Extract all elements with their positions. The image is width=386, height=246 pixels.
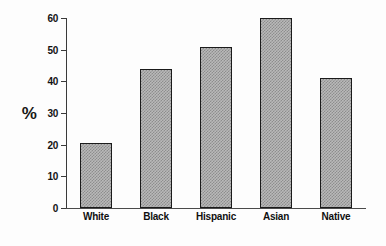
y-tick-label: 60 [47,13,58,24]
bar-asian [260,18,293,208]
bar-chart: % 0102030405060 WhiteBlackHispanicAsianN… [0,0,386,246]
bar-native [320,78,353,208]
y-tick-label: 40 [47,76,58,87]
bar-white [80,143,113,208]
y-tick-label: 10 [47,171,58,182]
y-tick-label: 0 [53,203,58,214]
x-axis-tick-labels: WhiteBlackHispanicAsianNative [66,211,366,229]
x-tick-label-asian: Asian [246,211,306,222]
y-tick-label: 50 [47,44,58,55]
y-tick-label: 30 [47,108,58,119]
x-tick-label-black: Black [126,211,186,222]
y-axis-title: % [12,104,46,124]
x-tick-label-white: White [66,211,126,222]
plot-area: 0102030405060 [66,18,366,209]
bar-hispanic [200,47,233,209]
bar-black [140,69,173,208]
y-tick-label: 20 [47,139,58,150]
bar-series [66,18,366,209]
x-tick-label-hispanic: Hispanic [186,211,246,222]
x-tick-label-native: Native [306,211,366,222]
